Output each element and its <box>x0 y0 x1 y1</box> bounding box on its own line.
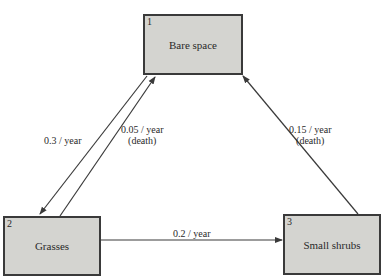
node-grasses: 2 Grasses <box>3 216 101 276</box>
node-small-shrubs: 3 Small shrubs <box>283 214 381 275</box>
rate-label-shrubs-to-bare: 0.15 / year (death) <box>289 124 332 146</box>
rate-value: 0.3 / year <box>44 135 82 146</box>
arrow-grasses-to-bare <box>60 77 155 216</box>
rate-value: 0.05 / year <box>121 124 164 135</box>
node-label: Bare space <box>169 39 217 51</box>
node-label: Grasses <box>35 240 69 252</box>
rate-value: 0.2 / year <box>173 228 211 239</box>
node-label: Small shrubs <box>303 239 360 251</box>
node-bare-space: 1 Bare space <box>143 14 243 75</box>
node-number: 1 <box>147 16 152 27</box>
rate-label-grasses-to-shrubs: 0.2 / year <box>173 228 211 239</box>
node-number: 3 <box>287 216 292 227</box>
rate-value: 0.15 / year <box>289 124 332 135</box>
rate-note: (death) <box>289 135 332 146</box>
rate-label-grasses-to-bare: 0.05 / year (death) <box>121 124 164 146</box>
rate-label-bare-to-grasses: 0.3 / year <box>44 135 82 146</box>
rate-note: (death) <box>121 135 164 146</box>
node-number: 2 <box>7 218 12 229</box>
